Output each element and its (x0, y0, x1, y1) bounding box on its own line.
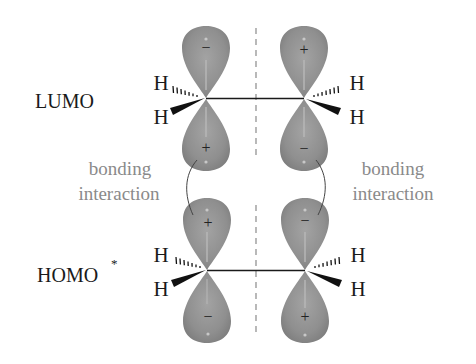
lumo-left-top-lobe: − (182, 26, 230, 98)
lumo-right-bottom-lobe: − (280, 99, 328, 171)
hydrogen-atom: H (153, 71, 168, 95)
left-bonding-annotation: bonding interaction (78, 158, 160, 204)
frontier-orbital-diagram: − + + − (0, 0, 476, 364)
hydrogen-atom: H (350, 277, 365, 301)
homo-left-hashed-wedge (176, 257, 200, 268)
sign-minus: − (300, 212, 309, 229)
lumo-label: LUMO (35, 90, 94, 112)
lumo-orbital: − + + − (35, 26, 365, 171)
lumo-right-hashed-wedge (314, 86, 339, 97)
homo-right-top-lobe: − (281, 198, 329, 270)
sign-plus: + (300, 308, 309, 325)
hydrogen-atom: H (153, 243, 168, 267)
hydrogen-atom: H (349, 105, 364, 129)
sign-minus: − (299, 140, 308, 157)
homo-right-bottom-lobe: + (281, 271, 329, 343)
hydrogen-atom: H (153, 277, 168, 301)
annotation-line: bonding (362, 158, 425, 179)
lumo-right-top-lobe: + (280, 26, 328, 98)
sign-minus: − (201, 39, 210, 56)
homo-label-text: HOMO (37, 264, 98, 286)
hydrogen-atom: H (153, 105, 168, 129)
hydrogen-atom: H (350, 243, 365, 267)
sign-plus: + (201, 139, 210, 156)
annotation-line: interaction (78, 183, 160, 204)
lumo-left-bottom-lobe: + (182, 99, 230, 171)
annotation-line: interaction (352, 183, 434, 204)
homo-right-hashed-wedge (315, 257, 340, 268)
right-bonding-annotation: bonding interaction (352, 158, 434, 204)
sign-plus: + (299, 41, 308, 58)
sign-plus: + (203, 214, 212, 231)
homo-left-bottom-lobe: − (183, 271, 231, 343)
annotation-line: bonding (89, 158, 152, 179)
homo-orbital: + − − + H (37, 198, 366, 343)
homo-label-superscript: * (111, 256, 118, 271)
hydrogen-atom: H (349, 71, 364, 95)
lumo-left-hashed-wedge (173, 86, 197, 97)
sign-minus: − (203, 308, 212, 325)
homo-label: HOMO (37, 264, 98, 286)
